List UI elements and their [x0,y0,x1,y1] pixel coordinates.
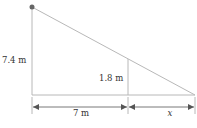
shadow-diagram: 7.4 m 1.8 m 7 m x [0,0,197,128]
lamp-dot-icon [30,5,35,10]
distance-label: 7 m [73,108,89,118]
shadow-label: x [168,108,173,118]
person-height-label: 1.8 m [99,73,123,83]
pole-height-label: 7.4 m [2,55,26,65]
